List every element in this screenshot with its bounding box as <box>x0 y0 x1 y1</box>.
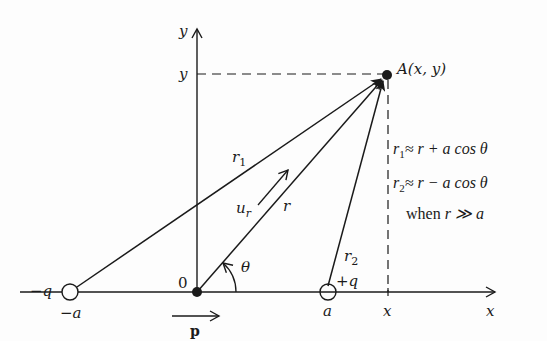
x-axis-label: x <box>486 304 494 319</box>
r1-subscript: 1 <box>239 156 246 169</box>
dipole-moment-label: p <box>190 324 200 338</box>
r-label: r <box>283 199 290 214</box>
y-axis-label: y <box>179 24 187 39</box>
condition-expr: r ≫ a <box>445 205 484 222</box>
positive-charge-label: +q <box>336 274 358 289</box>
condition: when r ≫ a <box>406 206 484 222</box>
negative-charge-label: −q <box>30 284 52 299</box>
point-A <box>382 70 392 80</box>
negative-position-label: −a <box>60 306 82 321</box>
r2-label: r2 <box>344 249 358 267</box>
dipole-diagram: y y x x 0 A(x, y) −q −a +q a r1 r r2 ur … <box>0 0 547 341</box>
x-tick-label: x <box>383 304 391 319</box>
point-A-label: A(x, y) <box>397 62 446 77</box>
condition-prefix: when <box>406 205 441 222</box>
r2-subscript: 2 <box>351 255 358 268</box>
r1-label: r1 <box>232 150 246 168</box>
angle-theta-arc <box>223 263 236 292</box>
equation-r1-rhs: ≈ r + a cos θ <box>405 140 488 157</box>
y-tick-label: y <box>179 67 187 82</box>
negative-charge-icon <box>62 284 78 300</box>
origin-point <box>192 287 202 297</box>
theta-label: θ <box>241 260 250 275</box>
unit-vector-label: ur <box>236 201 251 219</box>
equation-r1: r1≈ r + a cos θ <box>393 141 488 160</box>
origin-label: 0 <box>178 276 188 291</box>
positive-position-label: a <box>323 304 332 319</box>
diagram-lines <box>0 0 547 341</box>
equation-r2-rhs: ≈ r − a cos θ <box>405 174 488 191</box>
equation-r2: r2≈ r − a cos θ <box>393 175 488 194</box>
ur-subscript: r <box>246 207 251 220</box>
ur-symbol: u <box>236 199 246 217</box>
